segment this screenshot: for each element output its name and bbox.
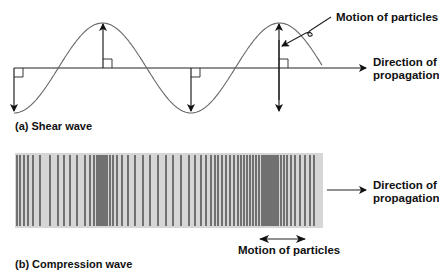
compression-direction-label: Direction of propagation <box>373 179 439 205</box>
right-angle-marker-4 <box>279 59 288 68</box>
shear-direction-line2: propagation <box>373 69 439 82</box>
right-angle-marker-3 <box>191 68 200 77</box>
compression-direction-line1: Direction of <box>373 179 439 192</box>
shear-direction-line1: Direction of <box>373 56 439 69</box>
shear-caption: (a) Shear wave <box>15 120 92 132</box>
compression-motion-label: Motion of particles <box>238 244 340 257</box>
compression-caption: (b) Compression wave <box>15 258 132 270</box>
compression-medium-band <box>15 153 323 228</box>
shear-wave-group <box>14 17 366 113</box>
diagram-canvas <box>0 0 439 271</box>
right-angle-marker-2 <box>103 59 112 68</box>
compression-wave-group <box>15 153 366 239</box>
shear-motion-label: Motion of particles <box>336 11 438 24</box>
right-angle-marker-1 <box>14 68 23 77</box>
shear-direction-label: Direction of propagation <box>373 56 439 82</box>
compression-direction-line2: propagation <box>373 192 439 205</box>
